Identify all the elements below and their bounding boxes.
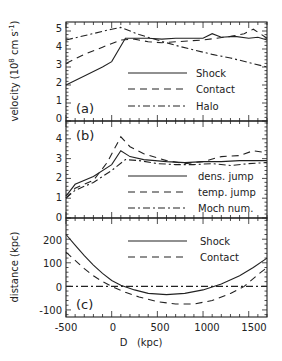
ytick-label: 4 [56, 41, 62, 52]
ytick-label: 2 [56, 172, 62, 183]
ytick-label: 2 [56, 77, 62, 88]
legend-label: Shock [196, 68, 226, 79]
panel-c-series [66, 235, 267, 305]
panel-b-legend: dens. jump temp. jump Moch num. [128, 171, 256, 214]
legend-label: Contact [200, 252, 239, 263]
series-line [66, 235, 267, 295]
legend-label: Moch num. [198, 203, 253, 214]
panel-c-legend: Shock Contact [128, 236, 239, 263]
panel-b-label: (b) [76, 128, 94, 143]
xtick-label: 1000 [194, 322, 219, 333]
legend-label: Halo [196, 101, 219, 112]
panel-c-label: (c) [76, 297, 93, 312]
panel-c-ytick-labels: -100 0 100 200 [39, 235, 62, 316]
panel-a-label: (a) [76, 101, 94, 116]
ytick-label: 3 [56, 153, 62, 164]
xtick-label: 0 [110, 322, 116, 333]
ytick-label: 1 [56, 95, 62, 106]
panel-b-ytick-labels: 0 1 2 3 4 [56, 133, 62, 223]
x-tick-labels: -500 0 500 1000 1500 [55, 322, 267, 333]
panel-a-legend: Shock Contact Halo [128, 68, 235, 112]
xtick-label: 500 [150, 322, 169, 333]
ytick-label: 0 [56, 212, 62, 223]
velocity-axis-label: velocity (108 cm s-1) [8, 20, 20, 121]
xtick-label: 1500 [241, 322, 266, 333]
panel-a-ytick-labels: 0 1 2 3 4 5 [56, 23, 62, 124]
x-axis-label: D (kpc) [120, 337, 163, 348]
series-line [66, 29, 267, 63]
ytick-label: 1 [56, 192, 62, 203]
legend-label: temp. jump [198, 187, 256, 198]
panel-a-series [66, 27, 267, 85]
xtick-label: -500 [55, 322, 78, 333]
ytick-label: -100 [39, 305, 62, 316]
distance-axis-label: distance (kpc) [9, 231, 20, 302]
ytick-label: 4 [56, 133, 62, 144]
axis-ticks [66, 22, 267, 317]
figure: 0 1 2 3 4 5 0 1 2 3 4 -100 0 100 200 -50… [0, 0, 282, 361]
ytick-label: 0 [56, 282, 62, 293]
legend-label: dens. jump [198, 171, 254, 182]
ytick-label: 5 [56, 23, 62, 34]
legend-label: Shock [200, 236, 230, 247]
ytick-label: 200 [43, 235, 62, 246]
ytick-label: 100 [43, 258, 62, 269]
ytick-label: 3 [56, 59, 62, 70]
series-line [66, 27, 267, 67]
legend-label: Contact [196, 84, 235, 95]
ytick-label: 0 [56, 113, 62, 124]
